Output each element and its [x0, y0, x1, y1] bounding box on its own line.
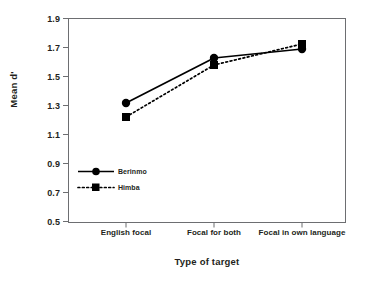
data-point-berinmo-focal-for-both	[210, 54, 218, 62]
legend-marker-circle-icon	[92, 168, 100, 176]
legend	[78, 168, 114, 191]
data-point-berinmo-english-focal	[122, 99, 130, 107]
x-axis-ticks	[126, 223, 302, 228]
chart-figure: Mean d' 1.9 1.7 1.5 1.3 1.1 0.9 0.7 0.5 …	[0, 0, 371, 281]
y-axis-ticks	[63, 19, 69, 222]
data-point-berinmo-focal-own-language	[298, 45, 306, 53]
data-point-himba-focal-for-both	[210, 61, 218, 69]
plot-area	[0, 0, 371, 281]
legend-marker-square-icon	[92, 184, 100, 192]
data-point-himba-english-focal	[122, 113, 130, 121]
